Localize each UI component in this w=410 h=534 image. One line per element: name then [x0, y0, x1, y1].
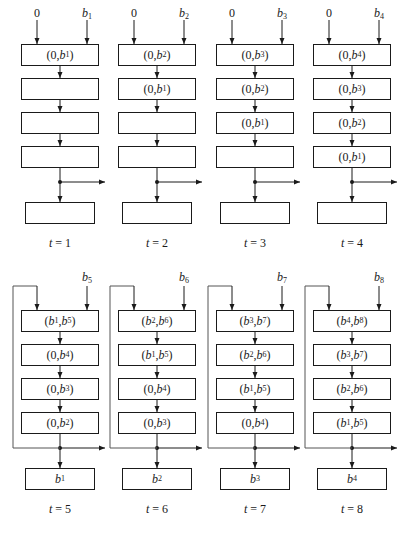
register-cell: (0, b3): [313, 78, 391, 100]
register-cell: [118, 146, 196, 168]
register-cell: (0, b4): [21, 344, 99, 366]
right-input-label: b7: [277, 270, 287, 285]
register-cell: (b3, b7): [313, 344, 391, 366]
register-cell: (0, b4): [216, 412, 294, 434]
output-cell: b2: [122, 468, 192, 490]
output-cell: b4: [317, 468, 387, 490]
register-cell: (b4, b8): [313, 310, 391, 332]
register-cell: (b1, b5): [118, 344, 196, 366]
time-step-label: t = 3: [244, 236, 266, 251]
register-cell: (0, b1): [118, 78, 196, 100]
right-input-label: b5: [82, 270, 92, 285]
register-cell: (b2, b6): [313, 378, 391, 400]
register-cell: [21, 78, 99, 100]
register-cell: (b1, b5): [313, 412, 391, 434]
right-input-label: b4: [374, 6, 384, 21]
right-input-label: b8: [374, 270, 384, 285]
time-step-label: t = 4: [341, 236, 363, 251]
output-cell: b3: [220, 468, 290, 490]
output-cell: [317, 202, 387, 224]
register-cell: [21, 112, 99, 134]
right-input-label: b2: [179, 6, 189, 21]
register-cell: (0, b3): [21, 378, 99, 400]
register-cell: (0, b3): [216, 44, 294, 66]
left-input-label: 0: [131, 6, 137, 21]
time-step-label: t = 8: [341, 502, 363, 517]
register-cell: (0, b4): [313, 44, 391, 66]
register-cell: (0, b2): [313, 112, 391, 134]
register-cell: (b2, b6): [216, 344, 294, 366]
time-step-label: t = 1: [49, 236, 71, 251]
pipeline-diagram: 0b1(0, b1)t = 10b2(0, b2)(0, b1)t = 20b3…: [0, 0, 410, 534]
register-cell: (0, b1): [21, 44, 99, 66]
register-cell: (b1, b5): [216, 378, 294, 400]
register-cell: (0, b4): [118, 378, 196, 400]
register-cell: (b1, b5): [21, 310, 99, 332]
left-input-label: 0: [326, 6, 332, 21]
register-cell: (0, b3): [118, 412, 196, 434]
register-cell: (0, b2): [118, 44, 196, 66]
register-cell: (b2, b6): [118, 310, 196, 332]
time-step-label: t = 5: [49, 502, 71, 517]
register-cell: (0, b2): [216, 78, 294, 100]
right-input-label: b6: [179, 270, 189, 285]
register-cell: (0, b1): [313, 146, 391, 168]
register-cell: [118, 112, 196, 134]
output-cell: [25, 202, 95, 224]
output-cell: [122, 202, 192, 224]
register-cell: (0, b1): [216, 112, 294, 134]
right-input-label: b1: [82, 6, 92, 21]
left-input-label: 0: [34, 6, 40, 21]
register-cell: (0, b2): [21, 412, 99, 434]
right-input-label: b3: [277, 6, 287, 21]
time-step-label: t = 6: [146, 502, 168, 517]
left-input-label: 0: [229, 6, 235, 21]
register-cell: [21, 146, 99, 168]
output-cell: b1: [25, 468, 95, 490]
output-cell: [220, 202, 290, 224]
register-cell: (b3, b7): [216, 310, 294, 332]
time-step-label: t = 2: [146, 236, 168, 251]
time-step-label: t = 7: [244, 502, 266, 517]
register-cell: [216, 146, 294, 168]
